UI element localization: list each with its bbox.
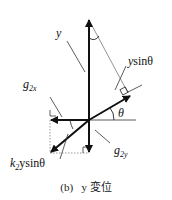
g2y-leader [95,130,110,143]
k2-leader [60,134,68,159]
label-y: y [56,27,61,39]
g2x-leader [50,97,62,117]
ysin-rest: sinθ [133,54,153,68]
caption-tag: (b) [60,181,73,193]
label-theta: θ [118,107,124,119]
k2-rest: ysinθ [19,156,45,170]
label-g2y: g2y [114,144,128,159]
projection-line [89,20,128,93]
component-rectangle [50,110,89,153]
label-ysin-theta: ysinθ [128,55,153,67]
label-g2x: g2x [23,78,37,93]
caption-text: y 変位 [81,181,111,193]
label-k2-ysin-theta: k2ysinθ [10,157,45,172]
theta-arc [110,108,114,120]
figure-caption: (b) y 変位 [0,178,172,194]
g2y-sub: 2y [120,150,128,159]
g2x-sub: 2x [29,84,37,93]
y-leader [67,41,85,72]
angle-arc-left [70,120,73,129]
